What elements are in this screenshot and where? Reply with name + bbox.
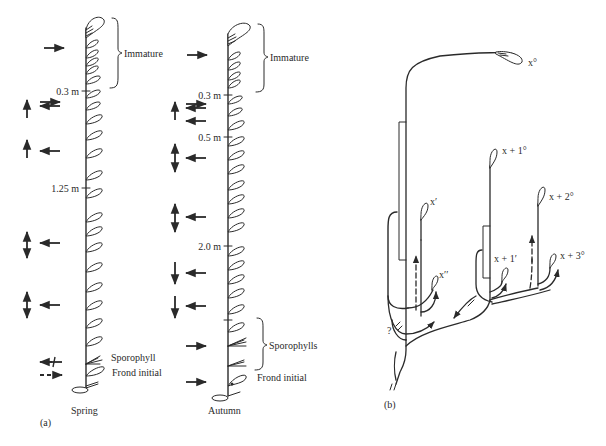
spring-frond-initial-label: Frond initial <box>112 367 162 378</box>
apex-x-plus-1-prime <box>502 268 508 282</box>
spring-caption: Spring <box>71 405 98 416</box>
autumn-plant <box>212 23 268 401</box>
node-label-x-plus-1-prime: x + 1′ <box>494 253 517 264</box>
figure: Immature 0.3 m 1.25 m Sporophyll Frond i… <box>0 0 606 446</box>
autumn-frond-initial-label: Frond initial <box>257 372 307 383</box>
spring-sporophyll-label: Sporophyll <box>111 352 156 363</box>
node-label-x-prime: x′ <box>430 196 437 207</box>
node-label-x-plus-2: x + 2° <box>549 191 574 202</box>
autumn-scale-2-0: 2.0 m <box>198 241 221 252</box>
panel-b-tree <box>388 51 558 390</box>
apex-x-plus-2 <box>538 187 545 206</box>
node-label-x0: x° <box>528 57 537 68</box>
spring-arrows <box>27 48 64 375</box>
autumn-scale-0-3: 0.3 m <box>198 90 221 101</box>
node-label-x-double-prime: x′′ <box>439 269 448 280</box>
panel-a-label: (a) <box>40 417 51 429</box>
question-mark: ? <box>387 325 392 336</box>
autumn-caption: Autumn <box>208 405 241 416</box>
spring-scale-0-3: 0.3 m <box>56 86 79 97</box>
spring-immature-label: Immature <box>124 48 163 59</box>
autumn-leaves <box>212 52 246 401</box>
spring-scale-1-25: 1.25 m <box>51 183 79 194</box>
panel-b-label: (b) <box>384 399 396 411</box>
apex-x-double-prime <box>432 276 438 290</box>
apex-x-plus-1 <box>490 149 497 168</box>
apex-x-prime <box>421 203 428 220</box>
spring-frond-initial-base <box>72 387 88 393</box>
autumn-immature-label: Immature <box>270 52 309 63</box>
node-label-x-plus-1: x + 1° <box>502 145 527 156</box>
node-label-x-plus-3: x + 3° <box>560 250 585 261</box>
autumn-scale-0-5: 0.5 m <box>198 132 221 143</box>
autumn-arrows <box>175 55 207 382</box>
autumn-sporophylls-label: Sporophylls <box>269 340 317 351</box>
apex-x-plus-3 <box>550 254 556 268</box>
spring-plant <box>72 17 122 393</box>
